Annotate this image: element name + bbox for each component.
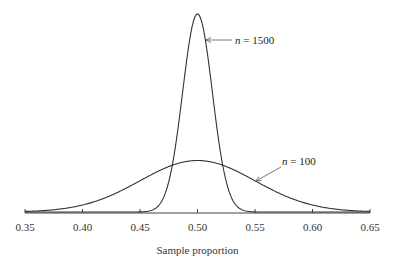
tick-label: 0.40 (73, 221, 93, 233)
svg-text:n = 1500: n = 1500 (235, 34, 275, 46)
curve-n100 (25, 161, 370, 212)
annotation-n1500: n = 1500 (206, 34, 275, 46)
x-tick-labels: 0.35 0.40 0.45 0.50 0.55 0.60 0.65 (15, 221, 380, 233)
tick-label: 0.45 (130, 221, 150, 233)
svg-text:n = 100: n = 100 (282, 155, 316, 167)
tick-label: 0.50 (188, 221, 208, 233)
tick-label: 0.60 (303, 221, 323, 233)
tick-label: 0.55 (245, 221, 265, 233)
sampling-distribution-chart: 0.35 0.40 0.45 0.50 0.55 0.60 0.65 Sampl… (0, 0, 398, 264)
tick-label: 0.65 (360, 221, 380, 233)
x-axis-title: Sample proportion (156, 244, 239, 256)
annotation-n100: n = 100 (256, 155, 316, 181)
tick-label: 0.35 (15, 221, 35, 233)
curve-n1500 (25, 14, 370, 212)
